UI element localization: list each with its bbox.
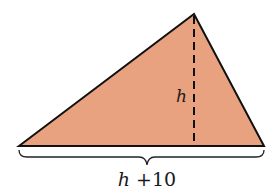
triangle: [19, 14, 264, 146]
height-label: h: [176, 86, 187, 106]
base-brace: [19, 150, 264, 165]
base-label: h +10: [118, 168, 176, 190]
triangle-diagram: h h +10: [0, 0, 279, 192]
